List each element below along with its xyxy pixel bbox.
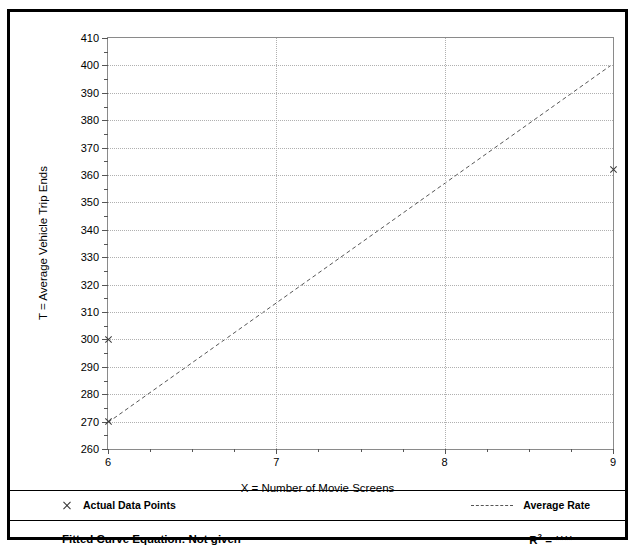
x-axis-minor-tick <box>361 449 362 452</box>
y-axis-tick <box>102 148 108 149</box>
y-axis-tick-label: 270 <box>81 416 99 428</box>
y-axis-tick-label: 260 <box>81 443 99 455</box>
y-axis-tick-label: 400 <box>81 59 99 71</box>
x-axis-tick <box>108 449 109 454</box>
y-axis-minor-tick <box>104 381 108 382</box>
y-axis-tick-label: 390 <box>81 87 99 99</box>
x-axis-tick-label: 6 <box>105 456 111 468</box>
y-axis-tick <box>102 285 108 286</box>
x-axis-minor-tick <box>571 449 572 452</box>
gridline-horizontal <box>108 175 613 176</box>
average-rate-line <box>108 65 611 422</box>
y-axis-minor-tick <box>104 298 108 299</box>
x-axis-tick-label: 9 <box>610 456 616 468</box>
gridline-horizontal <box>108 230 613 231</box>
chart-area: T = Average Vehicle Trip Ends 2602702802… <box>10 12 625 482</box>
gridline-horizontal <box>108 65 613 66</box>
y-axis-minor-tick <box>104 79 108 80</box>
y-axis-tick <box>102 93 108 94</box>
legend-row: Actual Data Points Average Rate <box>10 490 625 520</box>
legend-label-average-rate: Average Rate <box>523 499 590 511</box>
y-axis-tick-label: 310 <box>81 306 99 318</box>
y-axis-tick-label: 370 <box>81 142 99 154</box>
y-axis-minor-tick <box>104 161 108 162</box>
footer-row: Fitted Curve Equation: Not given R2 = **… <box>10 520 625 548</box>
plot-area: 2602702802903003103203303403503603703803… <box>107 37 614 450</box>
trend-line-layer <box>108 38 613 449</box>
y-axis-tick-label: 330 <box>81 251 99 263</box>
y-axis-minor-tick <box>104 326 108 327</box>
y-axis-tick-label: 410 <box>81 32 99 44</box>
gridline-horizontal <box>108 257 613 258</box>
x-axis-minor-tick <box>234 449 235 452</box>
y-axis-tick <box>102 175 108 176</box>
legend-label-actual-data-points: Actual Data Points <box>83 499 176 511</box>
data-point-marker <box>104 417 113 426</box>
gridline-horizontal <box>108 339 613 340</box>
data-point-marker <box>609 165 618 174</box>
gridline-horizontal <box>108 202 613 203</box>
x-axis-minor-tick <box>318 449 319 452</box>
gridline-horizontal <box>108 422 613 423</box>
y-axis-tick <box>102 65 108 66</box>
y-axis-tick-label: 290 <box>81 361 99 373</box>
gridline-horizontal <box>108 394 613 395</box>
legend-item-actual-data-points: Actual Data Points <box>62 499 176 511</box>
x-axis-minor-tick <box>150 449 151 452</box>
y-axis-tick <box>102 257 108 258</box>
x-axis-minor-tick <box>529 449 530 452</box>
y-axis-tick <box>102 367 108 368</box>
gridline-horizontal <box>108 120 613 121</box>
x-axis-tick-label: 7 <box>273 456 279 468</box>
y-axis-minor-tick <box>104 408 108 409</box>
y-axis-minor-tick <box>104 216 108 217</box>
y-axis-tick-label: 320 <box>81 279 99 291</box>
y-axis-minor-tick <box>104 189 108 190</box>
gridline-horizontal <box>108 93 613 94</box>
x-axis-minor-tick <box>403 449 404 452</box>
y-axis-tick-label: 360 <box>81 169 99 181</box>
r-squared-number: = **** <box>545 533 573 545</box>
dashed-line-icon <box>471 505 513 506</box>
y-axis-tick-label: 300 <box>81 333 99 345</box>
x-axis-tick <box>276 449 277 454</box>
y-axis-minor-tick <box>104 271 108 272</box>
y-axis-tick-label: 280 <box>81 388 99 400</box>
fitted-curve-equation: Fitted Curve Equation: Not given <box>62 533 241 545</box>
x-axis-minor-tick <box>487 449 488 452</box>
x-axis-tick <box>613 449 614 454</box>
x-marker-icon <box>62 500 72 510</box>
y-axis-tick <box>102 312 108 313</box>
legend-item-average-rate: Average Rate <box>471 499 590 511</box>
y-axis-tick <box>102 120 108 121</box>
x-axis-tick <box>445 449 446 454</box>
y-axis-minor-tick <box>104 134 108 135</box>
r-squared-exponent: 2 <box>538 532 542 541</box>
y-axis-minor-tick <box>104 353 108 354</box>
gridline-vertical <box>445 38 446 449</box>
scan-bleed-top <box>0 0 638 8</box>
data-point-marker <box>104 335 113 344</box>
y-axis-tick <box>102 202 108 203</box>
y-axis-minor-tick <box>104 244 108 245</box>
x-axis-tick-label: 8 <box>442 456 448 468</box>
y-axis-title: T = Average Vehicle Trip Ends <box>37 166 49 320</box>
gridline-horizontal <box>108 285 613 286</box>
gridline-vertical <box>276 38 277 449</box>
y-axis-minor-tick <box>104 435 108 436</box>
gridline-horizontal <box>108 367 613 368</box>
gridline-horizontal <box>108 148 613 149</box>
gridline-horizontal <box>108 312 613 313</box>
chart-page-frame: T = Average Vehicle Trip Ends 2602702802… <box>7 9 628 540</box>
y-axis-tick <box>102 230 108 231</box>
y-axis-tick-label: 380 <box>81 114 99 126</box>
y-axis-tick-label: 340 <box>81 224 99 236</box>
x-axis-minor-tick <box>192 449 193 452</box>
r-squared-value: R2 = **** <box>529 532 573 546</box>
y-axis-minor-tick <box>104 107 108 108</box>
y-axis-tick-label: 350 <box>81 196 99 208</box>
y-axis-tick <box>102 38 108 39</box>
y-axis-minor-tick <box>104 52 108 53</box>
y-axis-tick <box>102 394 108 395</box>
